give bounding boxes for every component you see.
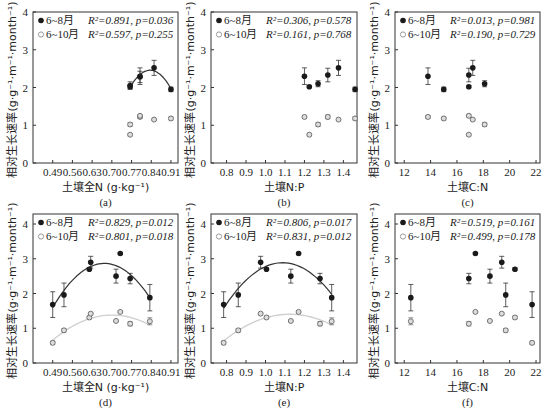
data-point [487,273,493,279]
y-axis-label: 相对生长速率(g·g⁻¹·m⁻¹·month⁻¹) [183,202,197,378]
legend-stats: R²=0.891, p=0.036 [87,14,174,26]
data-point [512,315,517,320]
data-point [137,74,143,80]
data-point [512,266,518,272]
legend-marker-filled-icon [400,220,406,226]
data-point [352,87,358,93]
data-point [235,292,241,298]
y-tick-label: 3 [385,44,391,56]
data-point [302,114,307,119]
x-tick-label: 0.91 [161,166,180,178]
x-tick-label: 1.1 [278,166,292,178]
x-tick-label: 0.91 [161,366,180,378]
x-tick-label: 14 [425,166,437,178]
data-point [353,116,358,121]
x-axis-label: 土壤全N (g·kg⁻¹) [62,180,149,194]
data-point [61,328,66,333]
y-tick-label: 4 [385,218,391,230]
legend-label: 6~10月 [46,28,79,40]
x-tick-label: 0.9 [239,166,253,178]
y-tick-label: 1 [201,322,207,334]
data-point [113,273,119,279]
data-point [152,117,157,122]
data-point [168,116,173,121]
x-tick-label: 0.8 [220,366,234,378]
x-tick-label: 1.3 [317,166,331,178]
y-tick-label: 4 [23,218,29,230]
data-point [499,259,505,265]
data-point [221,340,226,345]
chart-panel-c: 01234121416182022相对生长速率(g·g⁻¹·m⁻¹·month⁻… [367,1,542,209]
fit-curve [53,263,150,307]
y-tick-label: 1 [23,322,29,334]
panel-caption: (d) [99,396,112,409]
data-point [529,302,535,308]
data-point [236,328,241,333]
legend-marker-open-icon [216,234,221,239]
legend-stats: R²=0.519, p=0.161 [449,216,535,228]
y-tick-label: 0 [23,157,29,169]
data-point [296,309,301,314]
data-point [329,319,334,324]
data-point [258,259,264,265]
x-tick-label: 1.1 [278,366,292,378]
data-point [441,87,447,93]
x-tick-label: 0.9 [239,366,253,378]
x-axis-label: 土壤C:N [447,380,489,394]
x-tick-label: 0.63 [83,166,103,178]
legend-marker-open-icon [216,32,221,37]
x-tick-label: 0.56 [63,166,83,178]
panel-caption: (c) [461,196,474,209]
legend-stats: R²=0.161, p=0.768 [265,28,352,40]
figure-canvas: 012340.490.560.630.700.770.840.91相对生长速率(… [0,0,545,411]
data-point [315,81,321,87]
y-tick-label: 3 [385,253,391,265]
chart-panel-f: 01234121416182022相对生长速率(g·g⁻¹·m⁻¹·month⁻… [367,202,542,409]
y-tick-label: 1 [201,119,207,131]
panel-caption: (b) [278,196,291,209]
x-tick-label: 0.70 [102,166,122,178]
legend-marker-filled-icon [38,18,44,24]
legend-label: 6~8月 [408,216,436,228]
chart-panel-b: 012340.80.91.01.11.21.31.4相对生长速率(g·g⁻¹·m… [183,1,358,209]
panel-caption: (a) [99,196,112,209]
data-point [466,321,471,326]
data-point [221,302,227,308]
legend-label: 6~8月 [46,216,74,228]
y-tick-label: 0 [385,157,391,169]
data-point [117,251,123,257]
legend-label: 6~10月 [408,230,441,242]
data-point [61,292,67,298]
data-point [325,114,330,119]
y-tick-label: 3 [23,44,29,56]
y-tick-label: 4 [385,6,391,18]
data-point [441,116,446,121]
legend-label: 6~8月 [224,216,252,228]
fit-curve [224,263,332,309]
x-tick-label: 14 [425,366,437,378]
data-point [258,311,263,316]
legend-stats: R²=0.013, p=0.981 [449,14,535,26]
data-point [147,295,153,301]
legend-marker-filled-icon [400,18,406,24]
data-point [318,321,323,326]
legend-stats: R²=0.831, p=0.012 [265,230,352,242]
data-point [473,251,479,257]
x-axis-label: 土壤N:P [264,380,305,394]
data-point [151,65,157,71]
fit-curve [224,314,332,341]
y-tick-label: 3 [23,253,29,265]
data-point [127,83,133,89]
x-tick-label: 0.56 [63,366,83,378]
legend-marker-filled-icon [38,220,44,226]
y-tick-label: 2 [385,82,391,94]
x-tick-label: 0.77 [122,366,142,378]
data-point [87,266,93,272]
x-tick-label: 0.63 [83,366,103,378]
x-tick-label: 1.0 [259,366,273,378]
data-point [302,73,308,79]
x-axis-label: 土壤C:N [447,180,489,194]
y-tick-label: 2 [201,82,207,94]
legend-marker-open-icon [400,32,405,37]
x-tick-label: 1.0 [259,166,273,178]
